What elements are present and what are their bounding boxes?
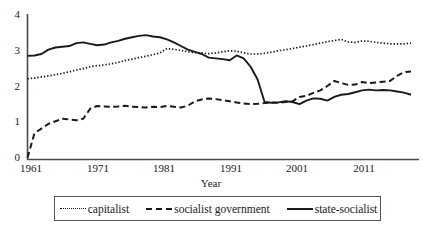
x-tick-label-1961: 1961 [11, 163, 51, 174]
x-tick-label-1971: 1971 [78, 163, 118, 174]
chart-legend: capitalist socialist government state-so… [54, 196, 381, 221]
x-tick-label-1981: 1981 [144, 163, 184, 174]
y-tick-label-2: 2 [6, 81, 20, 92]
y-tick-label-0: 0 [6, 152, 20, 163]
series-line-state-socialist [28, 35, 412, 104]
series-line-socialist-government [28, 71, 412, 157]
x-tick-label-2011: 2011 [344, 163, 384, 174]
legend-entry-capitalist: capitalist [60, 203, 130, 215]
legend-swatch-dashed-icon [146, 204, 172, 213]
y-tick-label-3: 3 [6, 45, 20, 56]
legend-label-state-socialist: state-socialist [315, 203, 378, 215]
data-series-group [28, 35, 412, 158]
chart-figure: 4 3 2 1 0 1961 1971 1981 1991 2001 2011 … [0, 0, 423, 231]
legend-entry-state-socialist: state-socialist [287, 203, 378, 215]
y-tick-label-4: 4 [6, 9, 20, 20]
x-tick-label-1991: 1991 [211, 163, 251, 174]
legend-swatch-solid-icon [287, 204, 313, 213]
legend-entry-socialist-government: socialist government [146, 203, 270, 215]
legend-swatch-dotted-icon [60, 204, 86, 213]
legend-label-socialist-government: socialist government [174, 203, 270, 215]
x-axis-title: Year [191, 177, 231, 189]
y-tick-label-1: 1 [6, 116, 20, 127]
x-tick-label-2001: 2001 [277, 163, 317, 174]
legend-label-capitalist: capitalist [88, 203, 130, 215]
